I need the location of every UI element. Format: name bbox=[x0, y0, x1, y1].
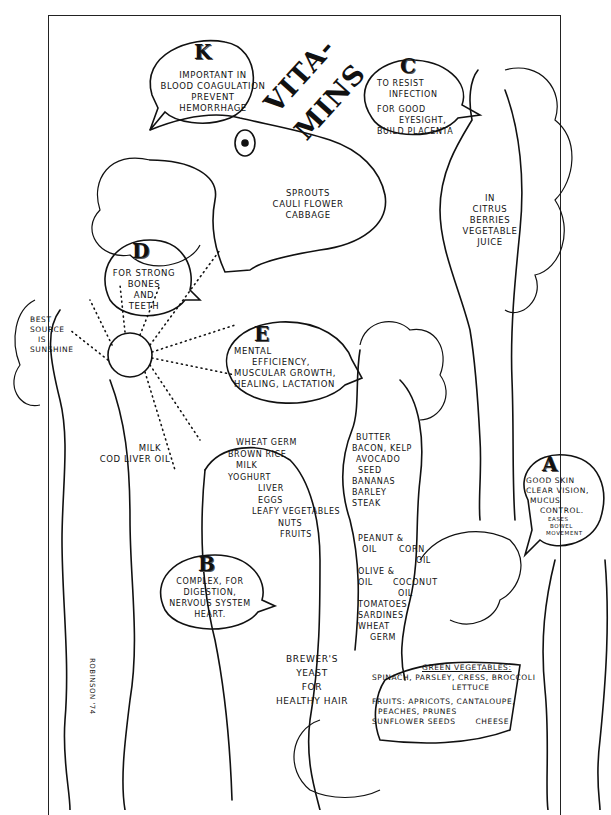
benefit: IMPORTANT IN bbox=[158, 70, 268, 81]
vitamin-k-sources: SPROUTS CAULI FLOWER CABBAGE bbox=[268, 188, 348, 221]
benefit: MOVEMENT bbox=[526, 530, 589, 537]
benefit: DIGESTION, bbox=[160, 587, 260, 598]
vitamin-b-sources: WHEAT GERM BROWN RICE MILK YOGHURT LIVER… bbox=[228, 437, 340, 541]
extra-line: YEAST bbox=[262, 666, 362, 680]
benefit: TO RESIST bbox=[377, 78, 477, 89]
source: OIL bbox=[358, 545, 377, 554]
benefit: MUCUS bbox=[526, 496, 589, 506]
benefit: HEALING, LACTATION bbox=[234, 379, 336, 390]
source: CHEESE bbox=[456, 717, 509, 726]
note-line: SUNSHINE bbox=[30, 345, 74, 355]
benefit: CLEAR VISION, bbox=[526, 486, 589, 496]
source: AVOCADO bbox=[352, 454, 412, 465]
source: GERM bbox=[370, 633, 396, 642]
vitamin-a-letter: A bbox=[542, 452, 558, 476]
vitamin-e-sources: BUTTER BACON, KELP AVOCADO SEED BANANAS … bbox=[352, 432, 412, 509]
benefit: MENTAL bbox=[234, 346, 336, 357]
benefit: PREVENT bbox=[158, 92, 268, 103]
source: OIL bbox=[398, 589, 413, 598]
source: CAULI FLOWER bbox=[268, 199, 348, 210]
benefit: BOWEL bbox=[526, 523, 589, 530]
benefit: TEETH bbox=[104, 301, 184, 312]
benefit: NERVOUS SYSTEM bbox=[160, 598, 260, 609]
source: COD LIVER OIL bbox=[90, 454, 180, 465]
source: LIVER bbox=[228, 483, 340, 495]
vitamin-d-sources: MILK COD LIVER OIL bbox=[90, 443, 180, 465]
benefit: EASES bbox=[526, 516, 589, 523]
vitamin-b-letter: B bbox=[198, 552, 215, 576]
source: SPINACH, PARSLEY, CRESS, BROCCOLI bbox=[372, 673, 535, 682]
sun-circle bbox=[108, 333, 152, 377]
source: NUTS bbox=[228, 518, 340, 530]
source: FRUITS: APRICOTS, CANTALOUPE, bbox=[372, 697, 535, 707]
vitamin-d-letter: D bbox=[132, 239, 149, 263]
vitamin-b-benefits: COMPLEX, FOR DIGESTION, NERVOUS SYSTEM H… bbox=[160, 576, 260, 620]
source: VEGETABLE bbox=[455, 226, 525, 237]
benefit: GOOD SKIN bbox=[526, 476, 589, 486]
source: LETTUCE bbox=[372, 683, 535, 693]
source: LEAFY VEGETABLES bbox=[228, 506, 340, 518]
vitamin-c-benefits: TO RESIST INFECTION FOR GOOD EYESIGHT, B… bbox=[377, 78, 477, 137]
benefit: INFECTION bbox=[377, 89, 477, 100]
vitamin-a-benefits: GOOD SKIN CLEAR VISION, MUCUS CONTROL. E… bbox=[526, 476, 589, 537]
vitamin-b-extra: BREWER'S YEAST FOR HEALTHY HAIR bbox=[262, 652, 362, 708]
extra-line: HEALTHY HAIR bbox=[262, 694, 362, 708]
vitamin-k-benefits: IMPORTANT IN BLOOD COAGULATION PREVENT H… bbox=[158, 70, 268, 114]
note-line: IS bbox=[30, 335, 74, 345]
source: TOMATOES bbox=[358, 600, 407, 609]
vitamin-e-oils: PEANUT & OILCORN OIL OLIVE & OILCOCONUT … bbox=[358, 533, 438, 643]
source: COCONUT bbox=[373, 578, 438, 587]
source: BANANAS bbox=[352, 476, 412, 487]
source: BERRIES bbox=[455, 215, 525, 226]
source: WHEAT bbox=[358, 622, 390, 631]
source: SEED bbox=[352, 465, 412, 476]
benefit: BUILD PLACENTA bbox=[377, 126, 477, 137]
benefit: EYESIGHT, bbox=[377, 115, 477, 126]
source: PEANUT & bbox=[358, 534, 404, 543]
extra-line: FOR bbox=[262, 680, 362, 694]
source: CITRUS bbox=[455, 204, 525, 215]
benefit: HEART. bbox=[160, 609, 260, 620]
benefit: BONES bbox=[104, 279, 184, 290]
source: OIL bbox=[416, 556, 431, 565]
hair-e bbox=[360, 322, 446, 420]
source: SUNFLOWER SEEDS bbox=[372, 717, 456, 726]
source: MILK bbox=[228, 460, 340, 472]
source: FRUITS bbox=[228, 529, 340, 541]
figure-d bbox=[51, 310, 70, 810]
source: OIL bbox=[358, 578, 373, 587]
vitamin-k-letter: K bbox=[194, 40, 211, 64]
figure-a bbox=[543, 560, 555, 810]
benefit: FOR STRONG bbox=[104, 268, 184, 279]
benefit: AND bbox=[104, 290, 184, 301]
vitamin-e-benefits: MENTAL EFFICIENCY, MUSCULAR GROWTH, HEAL… bbox=[234, 346, 336, 390]
source: CABBAGE bbox=[268, 210, 348, 221]
source: CORN bbox=[377, 545, 425, 554]
source: BARLEY bbox=[352, 487, 412, 498]
source: BACON, KELP bbox=[352, 443, 412, 454]
benefit: EFFICIENCY, bbox=[234, 357, 336, 368]
benefit: HEMORRHAGE bbox=[158, 103, 268, 114]
figure-c bbox=[440, 70, 481, 520]
source: JUICE bbox=[455, 237, 525, 248]
artist-signature: ROBINSON '74 bbox=[88, 658, 96, 715]
benefit: COMPLEX, FOR bbox=[160, 576, 260, 587]
benefit: FOR GOOD bbox=[377, 104, 477, 115]
source: EGGS bbox=[228, 495, 340, 507]
source: SPROUTS bbox=[268, 188, 348, 199]
vitamin-a-sources: GREEN VEGETABLES: SPINACH, PARSLEY, CRES… bbox=[372, 663, 535, 727]
note-line: BEST bbox=[30, 315, 74, 325]
source: WHEAT GERM bbox=[228, 437, 340, 449]
source-heading: GREEN VEGETABLES: bbox=[372, 663, 535, 673]
vitamin-c-letter: C bbox=[400, 54, 416, 78]
hair-b bbox=[294, 720, 380, 798]
extra-line: BREWER'S bbox=[262, 652, 362, 666]
source: BROWN RICE bbox=[228, 449, 340, 461]
source: SARDINES bbox=[358, 611, 404, 620]
benefit: BLOOD COAGULATION bbox=[158, 81, 268, 92]
vitamin-d-benefits: FOR STRONG BONES AND TEETH bbox=[104, 268, 184, 312]
source: IN bbox=[455, 193, 525, 204]
benefit: CONTROL. bbox=[526, 506, 589, 516]
source: PEACHES, PRUNES bbox=[372, 707, 535, 717]
benefit: MUSCULAR GROWTH, bbox=[234, 368, 336, 379]
